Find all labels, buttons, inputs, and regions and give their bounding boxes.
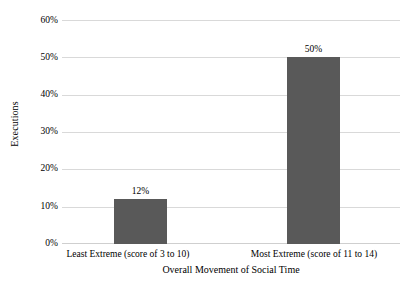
category-label-least-extreme: Least Extreme (score of 3 to 10) [48,247,208,261]
y-tick-label: 50% [24,52,58,62]
bar-least-extreme [114,199,167,244]
x-axis-title: Overall Movement of Social Time [62,263,400,277]
y-tick-label: 10% [24,201,58,211]
plot-area: 12% 50% [62,20,400,244]
bar-value-label: 12% [114,186,167,197]
y-tick-label: 20% [24,163,58,173]
gridline-20 [62,169,400,170]
y-tick-label: 60% [24,15,58,25]
category-label-most-extreme: Most Extreme (score of 11 to 14) [234,247,394,261]
bar-most-extreme [287,57,340,244]
bar-chart: Executions 60% 50% 40% 30% 20% 10% 0% 12… [0,0,417,293]
x-axis-category-labels: Least Extreme (score of 3 to 10) Most Ex… [62,247,400,263]
y-tick-label: 40% [24,89,58,99]
gridline-40 [62,95,400,96]
gridline-30 [62,132,400,133]
y-tick-label: 30% [24,126,58,136]
axis-baseline [62,243,400,244]
gridline-50 [62,57,400,58]
gridline-60 [62,20,400,21]
gridline-10 [62,207,400,208]
y-axis-tick-labels: 60% 50% 40% 30% 20% 10% 0% [20,20,58,244]
bar-value-label: 50% [287,44,340,55]
